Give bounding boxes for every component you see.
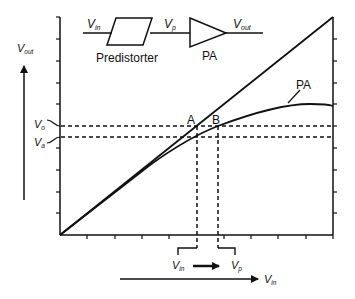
level-labels: Vo Va xyxy=(34,118,60,149)
block-vp-label: Vp xyxy=(164,17,176,32)
bottom-brackets xyxy=(178,248,235,255)
point-a-label: A xyxy=(187,113,195,127)
vo-leader xyxy=(47,120,60,126)
predistortion-diagram: Vin Vp Vout Predistorter PA Vout xyxy=(0,0,355,299)
va-label: Va xyxy=(34,136,45,149)
vout-axis-label: Vout xyxy=(17,42,35,55)
pa-curve-label: PA xyxy=(296,78,311,92)
vin-bracket xyxy=(178,248,197,255)
vout-axis-arrow: Vout xyxy=(17,42,35,200)
vp-bracket xyxy=(218,248,235,255)
predistorter-block xyxy=(107,18,152,45)
block-vin-label: Vin xyxy=(87,17,101,31)
vo-label: Vo xyxy=(34,118,45,131)
predistorter-label: Predistorter xyxy=(96,51,158,65)
block-vout-label: Vout xyxy=(233,17,252,31)
level-lines xyxy=(61,126,333,248)
pa-block-label: PA xyxy=(202,49,217,63)
pa-amplifier-triangle xyxy=(190,18,226,47)
bottom-vp-label: Vp xyxy=(231,259,242,273)
va-leader xyxy=(47,137,60,143)
point-b-label: B xyxy=(212,113,220,127)
bottom-vin-label: Vin xyxy=(172,259,185,272)
vin-axis-label: Vin xyxy=(264,273,277,286)
block-diagram: Vin Vp Vout Predistorter PA xyxy=(83,17,263,65)
